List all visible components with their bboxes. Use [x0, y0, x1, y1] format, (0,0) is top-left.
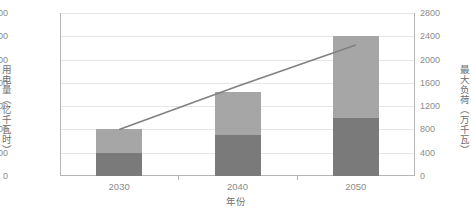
- y-axis-right-ticklabel: 2400: [420, 31, 440, 41]
- y-axis-left-ticklabel: 600: [0, 101, 8, 111]
- y-axis-right-ticklabel: 1200: [420, 101, 440, 111]
- y-axis-right-ticklabel: 0: [420, 171, 425, 181]
- y-axis-left-ticklabel: 200: [0, 148, 8, 158]
- y-axis-left-ticklabel: 1000: [0, 55, 8, 65]
- y-axis-right-ticklabel: 400: [420, 148, 435, 158]
- y-axis-left-ticklabel: 0: [3, 171, 8, 181]
- y-axis-left-ticklabel: 1200: [0, 31, 8, 41]
- x-axis-ticklabel-2030: 2030: [79, 181, 159, 192]
- y-axis-left-ticklabel: 1400: [0, 8, 8, 18]
- chart-container: 用电量（亿千瓦时） 最大负荷（万千瓦） 年份 14001200100080060…: [0, 0, 471, 219]
- y-axis-right-ticklabel: 800: [420, 124, 435, 134]
- y-axis-left-ticklabel: 400: [0, 124, 8, 134]
- y-axis-left-ticklabel: 800: [0, 78, 8, 88]
- y-axis-right-title: 最大负荷（万千瓦）: [457, 65, 471, 155]
- y-axis-right-ticklabel: 2800: [420, 8, 440, 18]
- x-axis-tickmark: [178, 176, 179, 180]
- line-series-layer: [60, 13, 415, 176]
- y-axis-right-ticklabel: 2000: [420, 55, 440, 65]
- x-axis-tickmark: [297, 176, 298, 180]
- x-axis-title: 年份: [0, 194, 471, 208]
- x-axis-ticklabel-2050: 2050: [316, 181, 396, 192]
- max-load-line: [119, 45, 356, 129]
- plot-area: [60, 13, 415, 176]
- x-axis-ticklabel-2040: 2040: [198, 181, 278, 192]
- y-axis-right-ticklabel: 1600: [420, 78, 440, 88]
